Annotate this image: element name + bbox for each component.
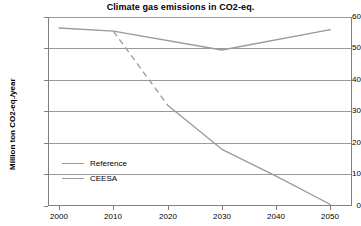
- climate-emissions-chart: Climate gas emissions in CO2-eq. Million…: [0, 0, 361, 226]
- gridline-60: [49, 17, 351, 18]
- y-tick-mark: [44, 206, 48, 207]
- x-tick-mark: [113, 206, 114, 210]
- legend-swatch-icon: [62, 163, 84, 164]
- x-tick-mark: [168, 206, 169, 210]
- gridline-30: [49, 111, 351, 112]
- legend-item-reference: Reference: [62, 156, 127, 171]
- x-tick-label: 2040: [256, 212, 296, 221]
- legend-label: Reference: [90, 159, 127, 168]
- x-tick-label: 2050: [310, 212, 350, 221]
- x-tick-mark: [330, 206, 331, 210]
- legend-item-ceesa: CEESA: [62, 171, 127, 186]
- x-tick-label: 2000: [39, 212, 79, 221]
- x-tick-mark: [59, 206, 60, 210]
- gridline-50: [49, 48, 351, 49]
- y-axis-title: Million ton CO2-eq./year: [8, 78, 17, 170]
- chart-legend: Reference CEESA: [62, 156, 127, 186]
- legend-label: CEESA: [90, 174, 117, 183]
- x-tick-mark: [276, 206, 277, 210]
- chart-title: Climate gas emissions in CO2-eq.: [0, 2, 361, 12]
- x-tick-label: 2010: [93, 212, 133, 221]
- legend-swatch-icon: [62, 178, 84, 179]
- x-tick-label: 2030: [202, 212, 242, 221]
- gridline-20: [49, 143, 351, 144]
- gridline-40: [49, 80, 351, 81]
- x-tick-label: 2020: [148, 212, 188, 221]
- x-tick-mark: [222, 206, 223, 210]
